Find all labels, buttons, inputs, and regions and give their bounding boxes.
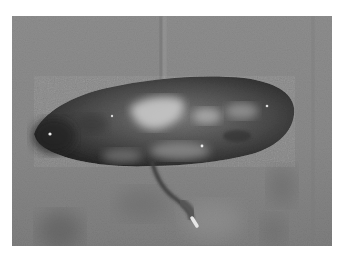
photo-canvas [12,16,332,246]
specimen-photograph [12,16,332,246]
